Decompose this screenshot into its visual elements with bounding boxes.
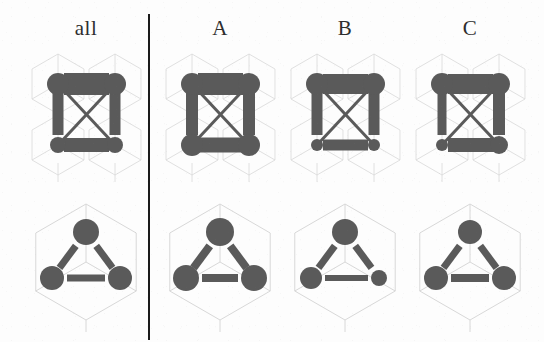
cell-row1-c bbox=[408, 50, 533, 190]
edge-horizontal-top bbox=[198, 73, 243, 95]
node-bottom-right bbox=[107, 137, 123, 153]
graph-square bbox=[306, 73, 385, 151]
edge-horizontal-bottom bbox=[64, 138, 109, 152]
node-bottom-left bbox=[40, 266, 64, 290]
edge-base bbox=[451, 274, 489, 282]
node-bottom-right bbox=[368, 139, 380, 151]
edge-horizontal-bottom bbox=[323, 140, 368, 151]
edge-right-slant bbox=[355, 246, 371, 268]
graph-triangle bbox=[300, 219, 387, 289]
node-bottom-left bbox=[300, 267, 322, 289]
figure-panel: all A B C bbox=[0, 0, 544, 342]
edge-vertical-right bbox=[493, 92, 505, 135]
edge-left-slant bbox=[193, 246, 209, 268]
cell-row1-a bbox=[158, 50, 283, 190]
edge-right-slant bbox=[230, 246, 246, 268]
node-top-left bbox=[47, 73, 69, 95]
cell-row1-b bbox=[283, 50, 408, 190]
graph-square bbox=[181, 73, 260, 156]
node-bottom-left bbox=[436, 139, 448, 151]
edge-horizontal-top bbox=[448, 74, 493, 94]
graph-square bbox=[47, 73, 126, 153]
edge-vertical-left bbox=[53, 92, 64, 135]
edge-vertical-left bbox=[186, 92, 198, 135]
node-top-right bbox=[363, 73, 385, 95]
column-header-b: B bbox=[285, 16, 405, 41]
edge-vertical-right bbox=[110, 92, 121, 135]
node-bottom-right bbox=[108, 266, 132, 290]
edge-left-slant bbox=[59, 246, 75, 268]
node-bottom-right bbox=[492, 266, 516, 290]
node-apex bbox=[73, 219, 99, 245]
node-bottom-left bbox=[181, 134, 203, 156]
edge-horizontal-bottom bbox=[198, 138, 243, 153]
column-header-a: A bbox=[160, 16, 280, 41]
edge-horizontal-top bbox=[64, 73, 109, 95]
edge-right-slant bbox=[96, 246, 112, 268]
node-top-right bbox=[104, 73, 126, 95]
node-bottom-left bbox=[173, 265, 199, 291]
node-top-left bbox=[431, 73, 453, 95]
node-bottom-left bbox=[50, 137, 66, 153]
edge-vertical-left bbox=[438, 92, 447, 135]
node-apex bbox=[206, 218, 234, 246]
edge-horizontal-bottom bbox=[448, 138, 493, 152]
node-bottom-right bbox=[238, 134, 260, 156]
cell-row2-all bbox=[24, 196, 149, 336]
node-top-right bbox=[488, 73, 510, 95]
edge-base bbox=[202, 274, 238, 282]
edge-base bbox=[67, 275, 105, 282]
node-top-left bbox=[181, 73, 203, 95]
graph-square bbox=[431, 73, 510, 154]
node-bottom-right bbox=[241, 265, 267, 291]
node-bottom-left bbox=[424, 266, 448, 290]
edge-right-slant bbox=[480, 246, 496, 268]
node-apex bbox=[332, 219, 358, 245]
node-top-left bbox=[306, 73, 328, 95]
edge-base bbox=[325, 275, 368, 281]
edge-vertical-right bbox=[243, 92, 255, 135]
edge-vertical-left bbox=[312, 92, 323, 135]
lattice-background bbox=[416, 54, 525, 182]
edge-left-slant bbox=[318, 246, 334, 268]
cell-row2-b bbox=[283, 196, 408, 336]
lattice-background bbox=[291, 54, 400, 182]
column-header-c: C bbox=[410, 16, 530, 41]
node-bottom-right bbox=[371, 270, 387, 286]
edge-left-slant bbox=[443, 246, 459, 268]
cell-row2-a bbox=[158, 196, 283, 336]
cell-row2-c bbox=[408, 196, 533, 336]
column-header-all: all bbox=[26, 16, 146, 41]
node-top-right bbox=[238, 73, 260, 95]
cell-row1-all bbox=[24, 50, 149, 190]
node-apex bbox=[458, 220, 482, 244]
node-bottom-left bbox=[311, 139, 323, 151]
edge-vertical-right bbox=[369, 92, 380, 135]
node-bottom-right bbox=[490, 136, 508, 154]
edge-horizontal-top bbox=[323, 74, 368, 94]
